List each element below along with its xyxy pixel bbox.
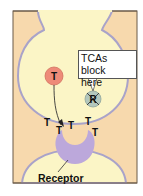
receptor-label: Receptor bbox=[38, 172, 84, 184]
vesicle-label: T bbox=[51, 71, 57, 82]
transmitter: T bbox=[56, 125, 62, 136]
tca-callout: TCAs block here bbox=[78, 50, 137, 79]
callout-line-2: here bbox=[81, 76, 134, 88]
synapse-diagram: T R T T T T T bbox=[0, 0, 143, 196]
transmitter: T bbox=[68, 120, 74, 131]
transmitter: T bbox=[44, 117, 50, 128]
transmitter: T bbox=[92, 127, 98, 138]
callout-line-1: TCAs block bbox=[81, 52, 134, 76]
transmitter: T bbox=[85, 116, 91, 127]
pump-label: R bbox=[89, 94, 97, 105]
